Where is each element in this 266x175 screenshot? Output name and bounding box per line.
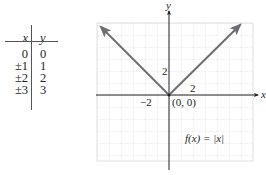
- origin-label: (0, 0): [172, 96, 196, 109]
- tick-label-x-positive: 2: [190, 82, 196, 94]
- abs-value-graph: x y −2 2 2 (0, 0) f(x) = |x|: [0, 0, 266, 175]
- y-axis-label: y: [165, 0, 171, 11]
- function-label: f(x) = |x|: [185, 132, 224, 145]
- x-axis-label: x: [260, 88, 266, 100]
- tick-label-x-negative: −2: [140, 96, 152, 108]
- tick-label-y-positive: 2: [162, 65, 168, 77]
- origin-point: [168, 94, 171, 97]
- grid: [97, 23, 253, 161]
